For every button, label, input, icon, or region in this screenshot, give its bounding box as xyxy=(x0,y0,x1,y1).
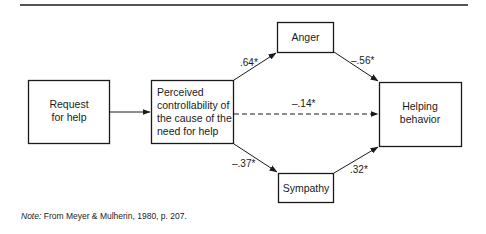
node-helping-behavior: Helping behavior xyxy=(380,83,462,147)
node-perceived-line-1: Perceived xyxy=(157,86,204,98)
edge-label-perceived-sympathy: –.37* xyxy=(232,158,255,169)
node-perceived-line-2: controllability of xyxy=(157,99,229,111)
node-sympathy-label: Sympathy xyxy=(283,182,330,194)
node-anger: Anger xyxy=(278,23,334,53)
edge-label-perceived-anger: .64* xyxy=(240,57,258,68)
edge-label-sympathy-helping: .32* xyxy=(350,164,368,175)
note-text: From Meyer & Mulherin, 1980, p. 207. xyxy=(41,211,187,221)
node-request-line-1: Request xyxy=(49,98,88,110)
node-helping-line-1: Helping xyxy=(402,100,438,112)
path-diagram: Request for help Perceived controllabili… xyxy=(0,0,486,234)
node-request: Request for help xyxy=(29,81,110,144)
node-helping-line-2: behavior xyxy=(400,113,441,125)
node-request-line-2: for help xyxy=(51,111,86,123)
node-perceived-line-4: need for help xyxy=(157,125,218,137)
node-perceived-line-3: the cause of the xyxy=(157,112,232,124)
node-perceived-controllability: Perceived controllability of the cause o… xyxy=(152,81,234,144)
figure-note: Note: From Meyer & Mulherin, 1980, p. 20… xyxy=(21,211,187,221)
note-prefix: Note: xyxy=(21,211,41,221)
edge-label-anger-helping: –.56* xyxy=(351,55,374,66)
node-anger-label: Anger xyxy=(291,31,320,43)
edge-label-perceived-helping: –.14* xyxy=(292,98,315,109)
node-sympathy: Sympathy xyxy=(279,174,334,203)
